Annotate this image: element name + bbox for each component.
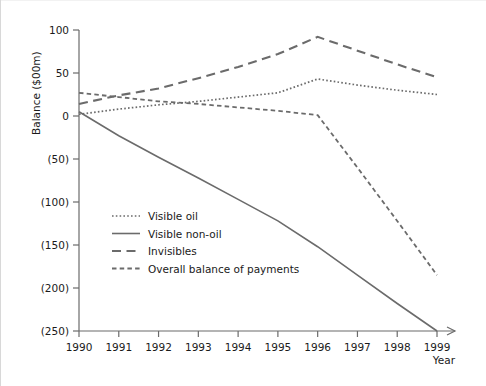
x-tick-label: 1996 xyxy=(304,341,331,353)
y-axis-title: Balance ($00m) xyxy=(30,51,42,135)
series-group xyxy=(79,37,437,331)
x-tick-label: 1995 xyxy=(265,341,292,353)
chart-page: Balance ($00m) 100500(50)(100)(150)(200)… xyxy=(0,0,486,386)
legend-item-label: Visible oil xyxy=(148,210,198,222)
chart-legend: Visible oilVisible non-oilInvisiblesOver… xyxy=(112,210,299,275)
x-axis-ticks: 1990199119921993199419951996199719981999 xyxy=(66,331,451,353)
x-tick-label: 1998 xyxy=(384,341,411,353)
x-tick-label: 1990 xyxy=(66,341,93,353)
y-axis-title-text: Balance ($00m) xyxy=(30,51,42,135)
series-line xyxy=(79,112,437,331)
x-tick-label: 1993 xyxy=(185,341,212,353)
series-line xyxy=(79,93,437,275)
x-axis xyxy=(79,327,455,335)
x-tick-label: 1991 xyxy=(105,341,132,353)
y-tick-label: (200) xyxy=(41,282,69,294)
series-line xyxy=(79,37,437,104)
y-tick-label: (100) xyxy=(41,196,69,208)
x-tick-label: 1997 xyxy=(344,341,371,353)
x-tick-label: 1999 xyxy=(424,341,451,353)
legend-item-label: Visible non-oil xyxy=(148,228,222,240)
y-tick-label: 0 xyxy=(62,110,69,122)
y-tick-label: (250) xyxy=(41,325,69,337)
x-axis-title-text: Year xyxy=(432,354,456,366)
legend-item-label: Overall balance of payments xyxy=(148,263,299,275)
y-axis-ticks: 100500(50)(100)(150)(200)(250) xyxy=(41,24,79,337)
x-tick-label: 1992 xyxy=(145,341,172,353)
line-chart: Balance ($00m) 100500(50)(100)(150)(200)… xyxy=(0,0,486,386)
y-tick-label: (50) xyxy=(47,153,69,165)
x-tick-label: 1994 xyxy=(225,341,252,353)
legend-item-label: Invisibles xyxy=(148,245,197,257)
y-tick-label: (150) xyxy=(41,239,69,251)
y-tick-label: 50 xyxy=(56,67,69,79)
y-tick-label: 100 xyxy=(49,24,69,36)
